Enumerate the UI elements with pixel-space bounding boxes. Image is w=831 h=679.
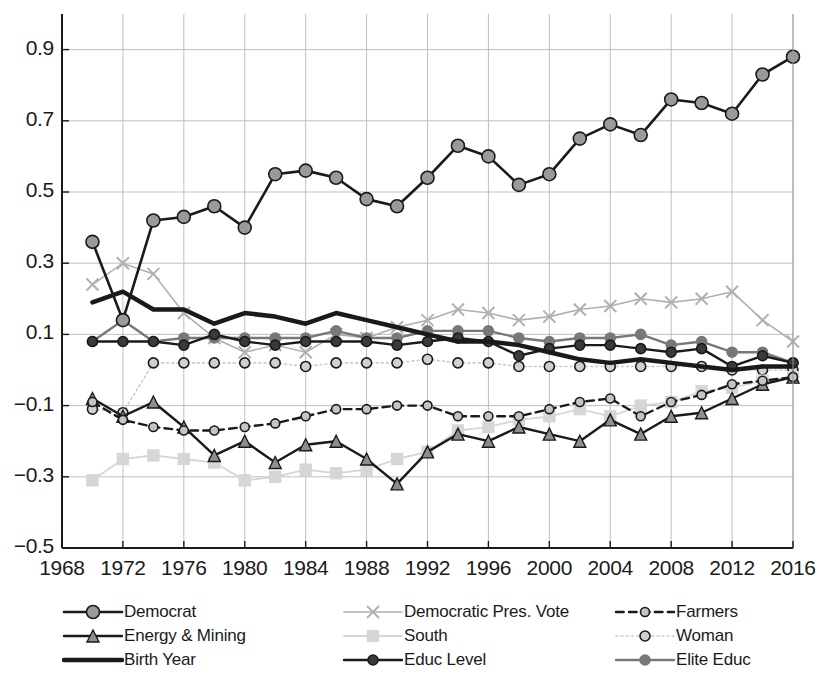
series-line bbox=[92, 377, 793, 480]
legend-item-elite-educ[interactable]: Elite Educ bbox=[614, 648, 802, 672]
data-point-marker bbox=[635, 428, 647, 440]
data-point-marker bbox=[453, 412, 462, 421]
data-point-marker bbox=[641, 608, 650, 617]
legend-swatch bbox=[342, 625, 404, 647]
data-point-marker bbox=[512, 178, 525, 191]
data-point-marker bbox=[483, 326, 493, 336]
data-series-layer bbox=[86, 50, 800, 490]
data-point-marker bbox=[756, 68, 769, 81]
legend-row: Birth YearEduc LevelElite Educ bbox=[62, 648, 802, 672]
data-point-marker bbox=[575, 340, 585, 350]
legend-row: DemocratDemocratic Pres. VoteFarmers bbox=[62, 600, 802, 624]
data-point-marker bbox=[331, 358, 341, 368]
data-point-marker bbox=[423, 401, 432, 410]
x-axis-tick-label: 2012 bbox=[702, 556, 762, 580]
data-point-marker bbox=[362, 358, 372, 368]
data-point-marker bbox=[269, 168, 282, 181]
data-point-marker bbox=[727, 347, 737, 357]
x-axis-tick-label: 1968 bbox=[32, 556, 92, 580]
legend-swatch bbox=[62, 649, 124, 671]
series-south bbox=[87, 372, 799, 486]
data-point-marker bbox=[636, 329, 646, 339]
data-point-marker bbox=[147, 268, 159, 280]
data-point-marker bbox=[271, 419, 280, 428]
legend-item-democrat[interactable]: Democrat bbox=[62, 600, 342, 624]
legend-item-woman[interactable]: Woman bbox=[614, 624, 802, 648]
series-democrat bbox=[86, 50, 800, 326]
data-point-marker bbox=[177, 210, 190, 223]
legend-item-democratic-pres-vote[interactable]: Democratic Pres. Vote bbox=[342, 600, 614, 624]
legend-label: Educ Level bbox=[404, 650, 486, 670]
data-point-marker bbox=[332, 405, 341, 414]
data-point-marker bbox=[209, 329, 219, 339]
data-point-marker bbox=[575, 361, 585, 371]
data-point-marker bbox=[391, 200, 404, 213]
data-point-marker bbox=[606, 394, 615, 403]
data-point-marker bbox=[640, 631, 650, 641]
data-point-marker bbox=[118, 337, 128, 347]
data-point-marker bbox=[147, 214, 160, 227]
y-axis-tick-label: −0.1 bbox=[14, 392, 54, 416]
data-point-marker bbox=[240, 337, 250, 347]
data-point-marker bbox=[665, 93, 678, 106]
series-line bbox=[92, 57, 793, 320]
data-point-marker bbox=[301, 337, 311, 347]
y-axis-tick-label: 0.5 bbox=[26, 178, 54, 202]
data-point-marker bbox=[299, 164, 312, 177]
data-point-marker bbox=[545, 405, 554, 414]
legend-swatch bbox=[342, 649, 404, 671]
data-point-marker bbox=[544, 361, 554, 371]
x-axis-tick-label: 2000 bbox=[519, 556, 579, 580]
data-point-marker bbox=[301, 412, 310, 421]
x-axis-tick-label: 1972 bbox=[93, 556, 153, 580]
data-point-marker bbox=[392, 454, 403, 465]
legend-item-energy-mining[interactable]: Energy & Mining bbox=[62, 624, 342, 648]
legend-label: Woman bbox=[676, 626, 733, 646]
data-point-marker bbox=[697, 390, 706, 399]
data-point-marker bbox=[301, 361, 311, 371]
legend-row: Energy & MiningSouthWoman bbox=[62, 624, 802, 648]
data-point-marker bbox=[393, 401, 402, 410]
data-point-marker bbox=[148, 337, 158, 347]
data-point-marker bbox=[543, 168, 556, 181]
x-axis-tick-label: 1980 bbox=[215, 556, 275, 580]
data-point-marker bbox=[208, 200, 221, 213]
data-point-marker bbox=[117, 454, 128, 465]
y-axis-tick-label: 0.7 bbox=[26, 107, 54, 131]
y-axis-tick-label: 0.9 bbox=[26, 36, 54, 60]
data-point-marker bbox=[758, 351, 768, 361]
data-point-marker bbox=[482, 150, 495, 163]
legend-item-birth-year[interactable]: Birth Year bbox=[62, 648, 342, 672]
data-point-marker bbox=[757, 314, 769, 326]
data-point-marker bbox=[368, 631, 379, 642]
data-point-marker bbox=[514, 361, 524, 371]
legend-label: Elite Educ bbox=[676, 650, 751, 670]
data-point-marker bbox=[728, 380, 737, 389]
data-point-marker bbox=[87, 475, 98, 486]
data-point-marker bbox=[423, 337, 433, 347]
legend-item-educ-level[interactable]: Educ Level bbox=[342, 648, 614, 672]
legend-label: Democrat bbox=[124, 602, 196, 622]
data-point-marker bbox=[695, 97, 708, 110]
data-point-marker bbox=[239, 435, 251, 447]
data-point-marker bbox=[635, 400, 646, 411]
data-point-marker bbox=[270, 358, 280, 368]
data-point-marker bbox=[392, 340, 402, 350]
legend-item-south[interactable]: South bbox=[342, 624, 614, 648]
x-axis-tick-label: 2004 bbox=[580, 556, 640, 580]
legend-item-farmers[interactable]: Farmers bbox=[614, 600, 802, 624]
data-point-marker bbox=[88, 398, 97, 407]
data-point-marker bbox=[209, 358, 219, 368]
data-point-marker bbox=[116, 314, 129, 327]
data-point-marker bbox=[331, 468, 342, 479]
data-point-marker bbox=[483, 421, 494, 432]
data-point-marker bbox=[636, 344, 646, 354]
data-point-marker bbox=[666, 347, 676, 357]
y-axis-tick-label: −0.5 bbox=[14, 534, 54, 558]
y-axis-tick-label: 0.3 bbox=[26, 249, 54, 273]
data-point-marker bbox=[484, 412, 493, 421]
legend-label: Energy & Mining bbox=[124, 626, 246, 646]
data-point-marker bbox=[573, 132, 586, 145]
data-point-marker bbox=[451, 139, 464, 152]
data-point-marker bbox=[368, 655, 378, 665]
